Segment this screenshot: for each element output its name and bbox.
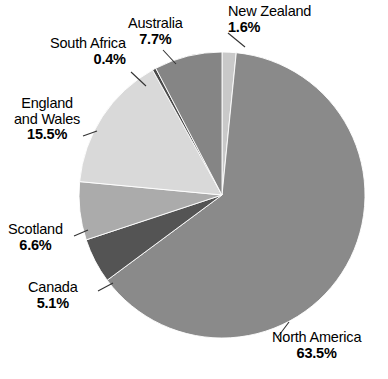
pie-slice-group [79,52,365,338]
slice-label-australia: Australia 7.7% [128,16,183,47]
slice-label-new-zealand: New Zealand 1.6% [228,4,311,35]
slice-label-canada-name: Canada [28,280,78,296]
slice-label-north-america-name: North America [272,330,361,346]
slice-label-north-america: North America 63.5% [272,330,361,361]
slice-label-new-zealand-value: 1.6% [228,20,311,36]
slice-label-canada-value: 5.1% [28,296,78,312]
slice-label-new-zealand-name: New Zealand [228,4,311,20]
pie-chart-figure: New Zealand 1.6% Australia 7.7% South Af… [0,0,388,379]
slice-label-south-africa: South Africa 0.4% [50,36,126,67]
slice-label-australia-value: 7.7% [128,32,183,48]
slice-label-canada: Canada 5.1% [28,280,78,311]
slice-label-england-and-wales-value: 15.5% [14,127,80,143]
slice-label-england-and-wales-name: England [14,96,80,112]
slice-label-scotland-name: Scotland [8,222,63,238]
slice-label-australia-name: Australia [128,16,183,32]
slice-label-england-and-wales-name-line2: and Wales [14,112,80,128]
slice-label-scotland-value: 6.6% [8,238,63,254]
slice-label-england-and-wales: England and Wales 15.5% [14,96,80,143]
slice-label-scotland: Scotland 6.6% [8,222,63,253]
slice-label-north-america-value: 63.5% [272,346,361,362]
slice-label-south-africa-value: 0.4% [50,52,126,68]
leader-line-canada [98,283,113,291]
slice-label-south-africa-name: South Africa [50,36,126,52]
